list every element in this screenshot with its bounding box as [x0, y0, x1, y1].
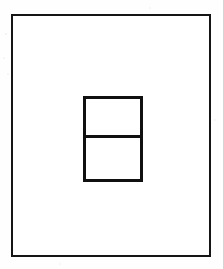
outer-rectangle: [11, 14, 211, 257]
inner-rectangle-lower-cell: [86, 138, 140, 179]
inner-rectangle-upper-cell: [86, 99, 140, 138]
inner-divided-rectangle: [83, 96, 143, 182]
figure-canvas: A large empty rectangle outline containi…: [0, 0, 223, 269]
figure-caption: A large empty rectangle outline containi…: [0, 0, 1, 1]
